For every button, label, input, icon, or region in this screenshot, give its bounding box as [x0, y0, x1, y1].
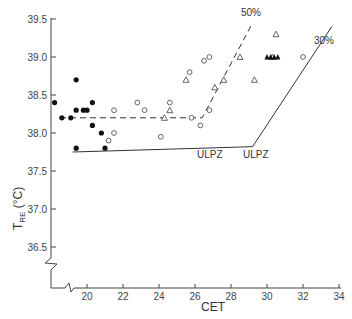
y-tick-label: 38.0: [28, 128, 48, 139]
y-axis-title-unit: (°C): [11, 187, 25, 212]
filled-triangle-point: [275, 54, 280, 60]
open-circle-point: [189, 115, 194, 120]
annotation-ulpz-dashed: ULPZ: [197, 149, 223, 160]
filled-circle-point: [102, 146, 107, 151]
y-axis-title: TRE (°C): [11, 187, 27, 230]
x-tick-label: 26: [189, 291, 201, 302]
filled-circle-point: [90, 123, 95, 128]
open-triangle-point: [273, 31, 279, 37]
x-tick-label: 22: [117, 291, 129, 302]
scatter-chart: 2022242628303234 36.537.037.538.038.539.…: [0, 0, 352, 319]
y-tick-label: 39.5: [28, 14, 48, 25]
x-tick-label: 34: [333, 291, 345, 302]
filled-circle-point: [52, 100, 57, 105]
ulpz-50-line: [60, 23, 253, 118]
open-triangle-point: [183, 77, 189, 83]
open-circle-point: [207, 55, 212, 60]
open-circle-point: [142, 108, 147, 113]
filled-circle-point: [74, 108, 79, 113]
x-tick-label: 30: [261, 291, 273, 302]
filled-circle-point: [59, 115, 64, 120]
filled-circle-point: [74, 146, 79, 151]
open-circle-point: [158, 134, 163, 139]
open-triangle-point: [237, 54, 243, 60]
x-tick-label: 28: [225, 291, 237, 302]
open-circle-point: [198, 123, 203, 128]
annotation-30-percent: 30%: [314, 35, 334, 46]
filled-circle-point: [74, 77, 79, 82]
open-circle-point: [112, 108, 117, 113]
open-triangle-point: [251, 77, 257, 83]
y-tick-label: 39.0: [28, 52, 48, 63]
y-tick-label: 37.0: [28, 204, 48, 215]
open-circle-point: [187, 70, 192, 75]
filled-circle-point: [90, 100, 95, 105]
y-tick-label: 38.5: [28, 90, 48, 101]
open-circle-point: [301, 55, 306, 60]
filled-circle-point: [84, 108, 89, 113]
open-circle-point: [207, 108, 212, 113]
open-triangle-point: [212, 84, 218, 90]
filled-circle-point: [68, 115, 73, 120]
annotation-ulpz-solid: ULPZ: [243, 149, 269, 160]
y-tick-label: 37.5: [28, 166, 48, 177]
y-axis-title-sub: RE: [18, 212, 27, 223]
y-ticks: 36.537.037.538.038.539.039.5: [28, 14, 56, 253]
open-triangle-point: [167, 107, 173, 113]
y-tick-label: 36.5: [28, 242, 48, 253]
x-axis-title: CET: [201, 300, 226, 314]
x-tick-label: 32: [297, 291, 309, 302]
open-circle-point: [106, 138, 111, 143]
x-axis-break-icon: [65, 283, 74, 292]
open-circle-point: [202, 58, 207, 63]
annotation-50-percent: 50%: [241, 7, 261, 18]
filled-circle-point: [99, 130, 104, 135]
x-tick-label: 20: [81, 291, 93, 302]
data-points: [52, 31, 305, 151]
y-axis-break-icon: [45, 258, 57, 288]
x-tick-label: 24: [153, 291, 165, 302]
svg-text:TRE (°C): TRE (°C): [11, 187, 27, 230]
open-circle-point: [167, 100, 172, 105]
open-triangle-point: [221, 77, 227, 83]
open-circle-point: [135, 100, 140, 105]
open-circle-point: [112, 131, 117, 136]
